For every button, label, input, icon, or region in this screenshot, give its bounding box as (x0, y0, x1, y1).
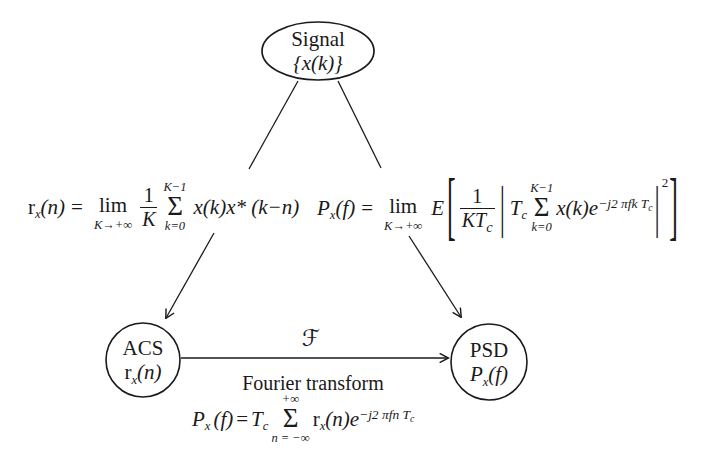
psd-summation: K−1Σk=0 (530, 182, 553, 234)
psd-node-title: PSD (470, 338, 509, 362)
ft-body-arg: (n)e (325, 407, 359, 431)
ft-body-sub: x (320, 420, 326, 433)
psd-exponent: −j2 πfk Tc (598, 197, 652, 210)
acs-node-title: ACS (123, 336, 164, 360)
psd-coef: T (510, 196, 522, 220)
psd-lhs-base: P (317, 196, 330, 220)
signal-node-symbol: {x(k)} (293, 51, 342, 75)
psd-equals: = (361, 196, 373, 220)
acs-equals: = (71, 195, 83, 219)
ft-summation: +∞Σn = −∞ (271, 393, 309, 445)
psd-lhs-arg: (f) (335, 196, 355, 220)
psd-symbol-base: P (470, 362, 483, 386)
figure-canvas: Signal {x(k)} ACS rx(n) PSD Px(f) rx(n)=… (0, 0, 722, 461)
acs-body: x(k)x* (k−n) (194, 197, 300, 218)
ft-lhs-sub: x (205, 420, 211, 433)
signal-node-title: Signal (291, 27, 345, 51)
psd-node-symbol: Px(f) (470, 362, 508, 386)
acs-lhs-base: r (28, 195, 35, 219)
psd-fraction: 1KTc (460, 185, 495, 232)
psd-square-exponent: 2 (662, 176, 669, 189)
acs-node: ACS rx(n) (105, 324, 181, 396)
acs-lhs-arg: (n) (41, 195, 66, 219)
psd-right-bracket: ] (669, 170, 678, 245)
acs-summation: K−1Σk=0 (163, 181, 186, 233)
acs-lim-operator: limK→+∞ (94, 195, 132, 232)
acs-symbol-sub: x (131, 373, 137, 387)
ft-lhs-arg: (f) (213, 407, 233, 431)
acs-symbol-arg: (n) (137, 360, 162, 384)
edge-signal-to-psd-line (338, 81, 381, 168)
psd-expectation: E (431, 198, 444, 219)
signal-node: Signal {x(k)} (262, 23, 374, 79)
ft-exponent: −j2 πfn Tc (359, 408, 414, 421)
psd-lhs-sub: x (330, 209, 336, 222)
ft-body-base: r (313, 407, 320, 431)
acs-fraction: 1K (140, 184, 157, 231)
psd-left-bracket: [ (447, 170, 456, 245)
psd-right-bar: | (655, 179, 660, 236)
edge-signal-to-acs-line (249, 81, 298, 169)
acs-definition-formula: rx(n)= limK→+∞ 1K K−1Σk=0 x(k)x* (k−n) (28, 170, 299, 244)
psd-symbol-arg: (f) (488, 362, 508, 386)
fourier-transform-formula: Px(f)= Tc +∞Σn = −∞ rx(n)e−j2 πfn Tc (192, 394, 414, 444)
ft-coef: T (251, 407, 263, 431)
ft-lhs-base: P (192, 407, 205, 431)
ft-equals: = (236, 407, 248, 431)
fourier-transform-caption: Fourier transform (228, 372, 398, 395)
edge-formula-to-acs-arrow (166, 233, 214, 318)
acs-lhs-sub: x (35, 208, 41, 221)
psd-body: x(k)e (556, 196, 598, 220)
acs-node-symbol: rx(n) (124, 360, 161, 384)
fourier-operator-symbol: ℱ (294, 325, 328, 351)
psd-definition-formula: Px(f)= limK→+∞ E [ 1KTc | Tc K−1Σk=0 x(k… (317, 164, 679, 252)
psd-node: PSD Px(f) (451, 326, 527, 398)
psd-left-bar: | (500, 179, 505, 236)
psd-lim-operator: limK→+∞ (384, 196, 422, 233)
psd-symbol-sub: x (483, 375, 489, 389)
